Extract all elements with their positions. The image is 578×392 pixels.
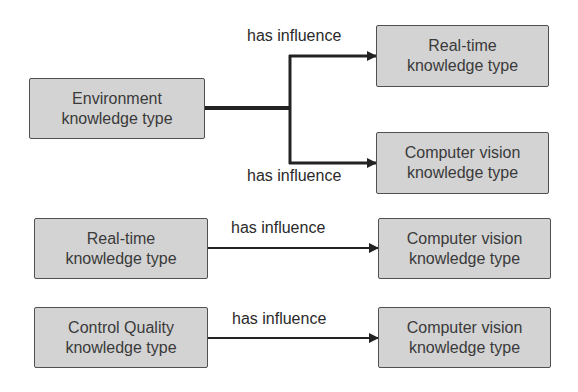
node-computer-vision-knowledge-type-mid[interactable]: Computer vision knowledge type xyxy=(378,218,551,279)
node-label-line1: Environment xyxy=(72,89,162,109)
node-label-line2: knowledge type xyxy=(65,249,176,269)
node-realtime-knowledge-type-top[interactable]: Real-time knowledge type xyxy=(376,25,549,87)
node-label-line1: Control Quality xyxy=(68,318,174,338)
node-label-line1: Computer vision xyxy=(407,229,523,249)
node-label-line1: Real-time xyxy=(87,229,155,249)
edge-label-realtime-to-computer-vision: has influence xyxy=(231,219,325,237)
node-label-line2: knowledge type xyxy=(407,163,518,183)
node-label-line1: Computer vision xyxy=(407,318,523,338)
node-label-line2: knowledge type xyxy=(65,338,176,358)
node-label-line2: knowledge type xyxy=(61,109,172,129)
edge-label-control-quality-to-computer-vision: has influence xyxy=(232,310,326,328)
node-realtime-knowledge-type-left[interactable]: Real-time knowledge type xyxy=(34,218,208,279)
node-label-line2: knowledge type xyxy=(409,338,520,358)
edge-label-env-to-realtime: has influence xyxy=(247,27,341,45)
edge-env-to-branch xyxy=(205,55,290,164)
node-label-line1: Real-time xyxy=(428,36,496,56)
node-label-line2: knowledge type xyxy=(407,56,518,76)
node-label-line1: Computer vision xyxy=(405,143,521,163)
node-control-quality-knowledge-type[interactable]: Control Quality knowledge type xyxy=(34,307,208,368)
node-label-line2: knowledge type xyxy=(409,249,520,269)
node-computer-vision-knowledge-type-bottom[interactable]: Computer vision knowledge type xyxy=(378,307,551,368)
edge-label-env-to-computer-vision: has influence xyxy=(247,167,341,185)
node-environment-knowledge-type[interactable]: Environment knowledge type xyxy=(29,78,205,139)
node-computer-vision-knowledge-type-top[interactable]: Computer vision knowledge type xyxy=(376,132,549,194)
